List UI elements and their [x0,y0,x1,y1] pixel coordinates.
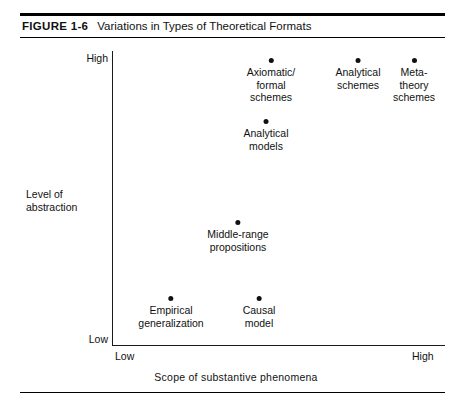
data-point-marker-icon [257,296,262,301]
x-axis-tick-low: Low [115,350,134,362]
data-point-label-line: generalization [138,317,203,330]
data-point-marker-icon [411,58,416,63]
data-point-marker-icon [263,119,268,124]
data-point-label-line: models [244,140,289,153]
figure-caption: FIGURE 1-6Variations in Types of Theoret… [22,18,311,35]
figure-title: Variations in Types of Theoretical Forma… [97,20,311,32]
data-point-marker-icon [168,296,173,301]
data-point: Analyticalschemes [336,58,381,91]
data-point-label: Causalmodel [243,304,276,329]
footer-rule-thin [20,392,445,393]
header-rule-thick [20,13,445,16]
data-point-label-line: propositions [207,241,268,254]
data-point-label: Meta-theoryschemes [393,66,435,104]
data-point-label-line: model [243,317,276,330]
x-axis-title: Scope of substantive phenomena [0,371,472,384]
y-axis-title-line-2: abstraction [26,201,77,213]
data-point-label-line: schemes [393,91,435,104]
y-axis-tick-low: Low [60,333,108,345]
data-point-marker-icon [235,220,240,225]
figure-number-label: FIGURE 1-6 [22,20,88,32]
data-point-label-line: Middle-range [207,228,268,241]
data-point-marker-icon [355,58,360,63]
data-point-label-line: Analytical [336,66,381,79]
data-point-label-line: Empirical [138,304,203,317]
data-point: Empiricalgeneralization [138,296,203,329]
data-point-label: Middle-rangepropositions [207,228,268,253]
y-axis-line [112,51,113,346]
data-point-label-line: schemes [336,79,381,92]
data-point-label: Empiricalgeneralization [138,304,203,329]
y-axis-tick-high: High [60,52,108,64]
y-axis-title-line-1: Level of [26,188,63,200]
data-point-label-line: theory [393,79,435,92]
data-point: Analyticalmodels [244,119,289,152]
data-point-label-line: schemes [247,91,295,104]
data-point: Middle-rangepropositions [207,220,268,253]
data-point-label: Analyticalschemes [336,66,381,91]
data-point-label: Analyticalmodels [244,127,289,152]
x-axis-line [112,345,445,346]
data-point: Causalmodel [243,296,276,329]
data-point: Meta-theoryschemes [393,58,435,104]
header-rule-thin [20,37,445,38]
data-point-label-line: Analytical [244,127,289,140]
data-point-label-line: formal [247,79,295,92]
data-point-marker-icon [269,58,274,63]
figure-container: FIGURE 1-6Variations in Types of Theoret… [0,0,472,418]
y-axis-title: Level of abstraction [26,188,77,213]
data-point: Axiomatic/formalschemes [247,58,295,104]
data-point-label-line: Causal [243,304,276,317]
data-point-label-line: Axiomatic/ [247,66,295,79]
data-point-label: Axiomatic/formalschemes [247,66,295,104]
x-axis-tick-high: High [412,350,434,362]
data-point-label-line: Meta- [393,66,435,79]
